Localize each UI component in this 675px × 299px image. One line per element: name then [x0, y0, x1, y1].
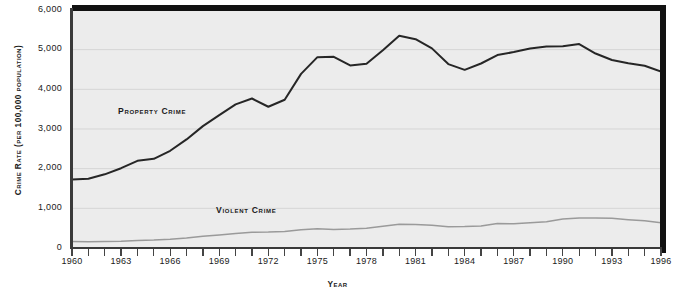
x-tick-label: 1972 [245, 256, 291, 266]
x-tick-mark [497, 249, 498, 256]
x-tick-mark [120, 249, 121, 256]
x-tick-mark [513, 249, 514, 256]
x-tick-mark [382, 249, 383, 256]
x-tick-mark [251, 249, 252, 256]
x-tick-label: 1987 [491, 256, 537, 266]
x-tick-mark [431, 249, 432, 256]
x-tick-mark [153, 249, 154, 256]
x-tick-mark [235, 249, 236, 256]
x-tick-mark [71, 249, 72, 256]
x-tick-mark [644, 249, 645, 256]
x-tick-mark [219, 249, 220, 256]
x-tick-mark [562, 249, 563, 256]
x-tick-mark [415, 249, 416, 256]
x-tick-mark [170, 249, 171, 256]
x-tick-mark [333, 249, 334, 256]
x-tick-label: 1975 [294, 256, 340, 266]
x-tick-mark [595, 249, 596, 256]
x-tick-label: 1984 [442, 256, 488, 266]
x-tick-mark [546, 249, 547, 256]
x-tick-mark [300, 249, 301, 256]
x-tick-mark [137, 249, 138, 256]
x-tick-label: 1963 [98, 256, 144, 266]
x-tick-mark [399, 249, 400, 256]
series-label-violent-crime: Violent Crime [216, 205, 276, 215]
x-tick-mark [579, 249, 580, 256]
x-tick-label: 1960 [49, 256, 95, 266]
x-tick-label: 1969 [196, 256, 242, 266]
x-tick-mark [529, 249, 530, 256]
x-tick-label: 1966 [147, 256, 193, 266]
x-tick-mark [186, 249, 187, 256]
x-tick-label: 1993 [589, 256, 635, 266]
x-tick-mark [88, 249, 89, 256]
x-tick-label: 1981 [393, 256, 439, 266]
x-tick-mark [628, 249, 629, 256]
x-tick-mark [660, 249, 661, 256]
x-tick-label: 1990 [540, 256, 586, 266]
series-label-property-crime: Property Crime [118, 106, 186, 116]
crime-rate-chart: Crime Rate (per 100,000 population) 01,0… [0, 0, 675, 299]
x-tick-mark [268, 249, 269, 256]
x-tick-mark [448, 249, 449, 256]
x-tick-mark [349, 249, 350, 256]
x-axis-ticks: 1960196319661969197219751978198119841987… [0, 0, 675, 299]
x-tick-mark [366, 249, 367, 256]
x-tick-label: 1996 [638, 256, 675, 266]
x-tick-mark [480, 249, 481, 256]
x-tick-mark [317, 249, 318, 256]
x-tick-mark [104, 249, 105, 256]
x-tick-mark [464, 249, 465, 256]
x-tick-label: 1978 [344, 256, 390, 266]
x-tick-mark [284, 249, 285, 256]
x-tick-mark [202, 249, 203, 256]
x-axis-title: Year [0, 279, 675, 289]
x-tick-mark [611, 249, 612, 256]
